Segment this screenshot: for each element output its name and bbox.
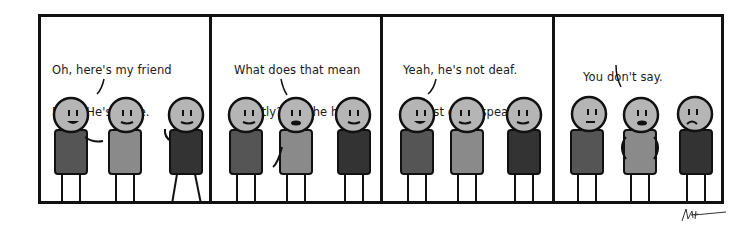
character-right: [336, 98, 370, 204]
comic-strip: Oh, here's my friend Mike. He's mute.: [38, 14, 724, 204]
character-left: [571, 97, 606, 204]
character-left: [400, 98, 434, 204]
panel-2: What does that mean exactly? Can he hear…: [212, 17, 380, 201]
character-middle: [450, 98, 484, 204]
character-right: [165, 98, 203, 204]
panel-2-art: [212, 17, 380, 204]
panel-3-art: [383, 17, 552, 204]
panel-1-art: [41, 17, 209, 204]
character-middle: [273, 98, 313, 204]
panel-1: Oh, here's my friend Mike. He's mute.: [41, 17, 209, 201]
character-right: [678, 97, 712, 204]
character-left: [54, 98, 103, 204]
character-right: [507, 98, 541, 204]
panel-3: Yeah, he's not deaf. He just can't speak…: [383, 17, 552, 201]
character-left: [229, 98, 263, 204]
panel-4: You don't say.: [555, 17, 724, 201]
character-middle: [109, 98, 143, 204]
signature-icon: [680, 205, 740, 225]
panel-4-art: [555, 17, 724, 204]
character-middle: [622, 98, 658, 204]
